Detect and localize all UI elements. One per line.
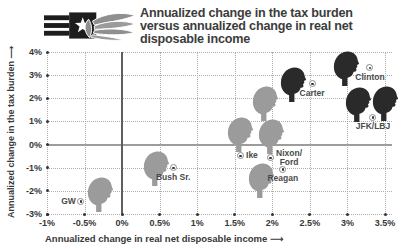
silhouette-nixon xyxy=(249,84,280,121)
x-tick-label: 1.5% xyxy=(225,218,246,228)
marker-dot-icon xyxy=(239,155,242,158)
marker-dot-icon xyxy=(369,67,372,70)
y-tick-label: 3% xyxy=(29,70,42,80)
marker-dot-icon xyxy=(372,116,375,119)
label-gw: GW xyxy=(61,197,76,206)
x-axis-title: Annualized change in real net disposable… xyxy=(45,233,283,244)
label-ike: Ike xyxy=(246,151,258,160)
marker-clinton xyxy=(366,64,373,71)
x-axis-tick-dot xyxy=(46,213,49,216)
silhouette-gw xyxy=(84,175,115,212)
head-profile-icon xyxy=(228,117,253,151)
marker-dot-icon xyxy=(80,200,83,203)
head-profile-icon xyxy=(252,87,277,121)
label-jfk-lbj: JFK/LBJ xyxy=(356,122,390,131)
x-tick-label: 3% xyxy=(341,218,354,228)
x-tick-label: 1% xyxy=(191,218,204,228)
label-reagan: Reagan xyxy=(267,174,298,183)
label-line: Bush Sr. xyxy=(156,173,190,182)
label-clinton: Clinton xyxy=(355,73,384,82)
x-axis-tick-dot xyxy=(158,213,161,216)
right-arrow-icon: ⟶ xyxy=(270,233,283,244)
x-tick-label: -0.5% xyxy=(73,218,97,228)
x-axis-tick-dot xyxy=(346,213,349,216)
y-axis-title: Annualized change in the tax burden ⟶ xyxy=(6,48,16,218)
head-profile-icon xyxy=(88,177,113,211)
x-axis-tick-dot xyxy=(196,213,199,216)
page: Annualized change in the tax burden vers… xyxy=(0,0,410,249)
gridline-horizontal xyxy=(47,121,392,122)
x-tick-label: 0% xyxy=(116,218,129,228)
label-line: Carter xyxy=(300,89,325,98)
gridline-horizontal xyxy=(47,98,392,99)
y-axis-tick-dot xyxy=(46,166,49,169)
y-axis-tick-dot xyxy=(46,97,49,100)
label-nixon-ford: Nixon/Ford xyxy=(276,149,302,167)
gridline-horizontal xyxy=(47,168,392,169)
x-axis-tick-dot xyxy=(308,213,311,216)
y-axis-tick-dot xyxy=(46,189,49,192)
x-axis-tick-dot xyxy=(384,213,387,216)
scatter-chart: 4%3%2%1%0%-1%-2%-3%-1%-0.5%0%0.5%1%1.5%2… xyxy=(0,0,410,249)
x-axis-tick-dot xyxy=(83,213,86,216)
label-carter: Carter xyxy=(300,89,325,98)
x-tick-label: 2.5% xyxy=(300,218,321,228)
label-line: JFK/LBJ xyxy=(356,122,390,131)
head-profile-icon xyxy=(373,87,398,121)
marker-dot-icon xyxy=(269,157,272,160)
marker-ike xyxy=(237,152,244,159)
marker-gw xyxy=(77,198,84,205)
gridline-vertical xyxy=(310,52,311,214)
y-axis-tick-dot xyxy=(46,120,49,123)
y-tick-label: 2% xyxy=(29,93,42,103)
y-tick-label: 4% xyxy=(29,47,42,57)
gridline-vertical xyxy=(160,52,161,214)
y-axis-tick-dot xyxy=(46,51,49,54)
gridline-vertical xyxy=(385,52,386,214)
label-line: Clinton xyxy=(355,73,384,82)
label-line: Reagan xyxy=(267,174,298,183)
y-tick-label: 1% xyxy=(29,116,42,126)
marker-bush-sr xyxy=(170,164,177,171)
x-tick-label: 2% xyxy=(266,218,279,228)
gridline-horizontal xyxy=(47,214,392,215)
x-axis-tick-dot xyxy=(121,213,124,216)
x-axis-tick-dot xyxy=(233,213,236,216)
label-line: GW xyxy=(61,197,76,206)
x-axis-tick-dot xyxy=(271,213,274,216)
y-tick-label: -1% xyxy=(26,163,42,173)
zero-gridline-horizontal xyxy=(47,144,392,146)
y-axis-tick-dot xyxy=(46,74,49,77)
gridline-vertical xyxy=(197,52,198,214)
marker-dot-icon xyxy=(282,168,285,171)
label-line: Ike xyxy=(246,151,258,160)
y-tick-label: -2% xyxy=(26,186,42,196)
y-axis-tick-dot xyxy=(46,143,49,146)
marker-carter xyxy=(309,80,316,87)
x-tick-label: -1% xyxy=(39,218,55,228)
x-tick-label: 3.5% xyxy=(375,218,396,228)
marker-dot-icon xyxy=(172,167,175,170)
y-tick-label: 0% xyxy=(29,140,42,150)
marker-dot-icon xyxy=(311,83,314,86)
label-bush-sr: Bush Sr. xyxy=(156,173,190,182)
marker-reagan xyxy=(279,166,286,173)
x-tick-label: 0.5% xyxy=(149,218,170,228)
zero-gridline-vertical xyxy=(121,52,123,214)
up-arrow-icon: ⟶ xyxy=(6,47,16,59)
